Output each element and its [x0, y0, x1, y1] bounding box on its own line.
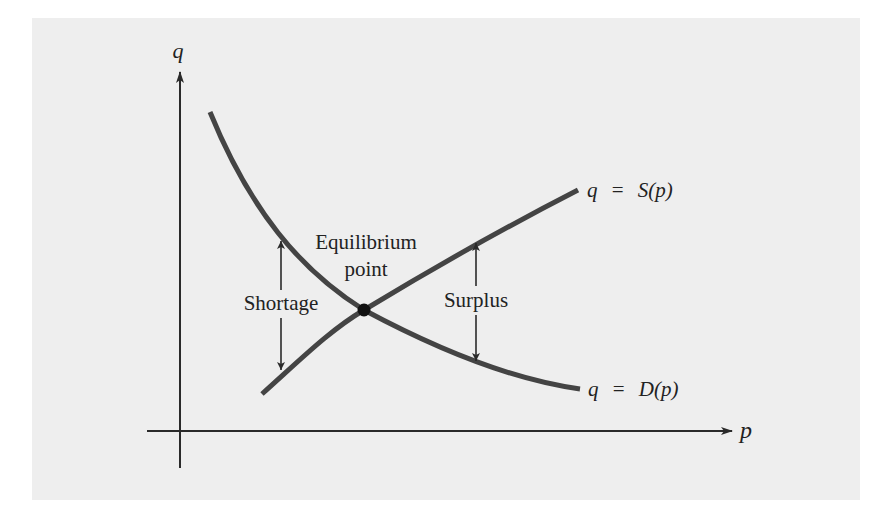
surplus-label: Surplus [444, 288, 508, 312]
demand-label-func: D [638, 377, 654, 401]
equilibrium-label: Equilibrium point [315, 230, 417, 281]
equilibrium-point-marker [358, 304, 371, 317]
q-axis-label: q [173, 38, 184, 63]
demand-curve-label: q = D(p) [588, 377, 679, 401]
supply-demand-diagram: q p Shortage Surplus Equilibrium point q… [0, 0, 892, 516]
q-axis: q [173, 38, 184, 468]
supply-label-eq: = [612, 178, 624, 202]
svg-text:q = D(p): q = D(p) [588, 377, 679, 401]
demand-label-lhs: q [588, 377, 599, 401]
shortage-label: Shortage [244, 291, 319, 315]
svg-text:q = S(p): q = S(p) [587, 178, 673, 202]
equilibrium-label-line2: point [344, 257, 387, 281]
supply-curve-label: q = S(p) [587, 178, 673, 202]
surplus-indicator: Surplus [444, 243, 508, 361]
supply-label-arg: (p) [648, 178, 673, 202]
supply-label-lhs: q [587, 178, 598, 202]
p-axis-label: p [738, 417, 752, 443]
demand-label-arg: (p) [654, 377, 679, 401]
equilibrium-label-line1: Equilibrium [315, 230, 417, 254]
demand-label-eq: = [613, 377, 625, 401]
p-axis: p [147, 417, 752, 443]
supply-label-func: S [638, 178, 649, 202]
